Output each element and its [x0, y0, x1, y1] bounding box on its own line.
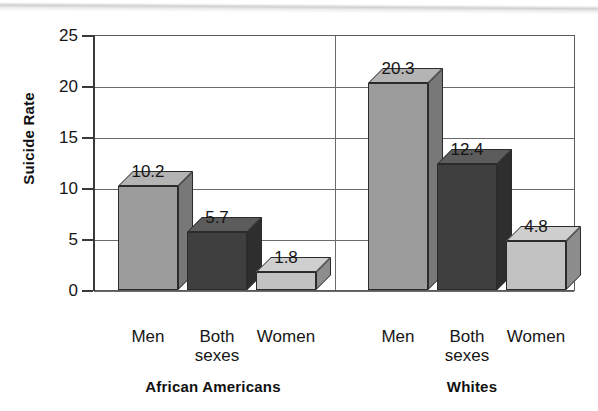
y-tick-mark-15 — [82, 137, 93, 139]
y-tick-label-5: 5 — [38, 231, 78, 248]
y-tick-label-20: 20 — [38, 78, 78, 95]
y-tick-label-25: 25 — [38, 27, 78, 44]
x-tick-label-african-americans-both-sexes: Both sexes — [177, 327, 257, 365]
gridline-0 — [94, 291, 574, 292]
y-tick-mark-5 — [82, 239, 93, 241]
bar-value-african-americans-men: 10.2 — [108, 163, 188, 180]
x-tick-label-african-americans-men: Men — [108, 327, 188, 346]
bar-front-face — [118, 186, 178, 290]
scan-artifact-streak — [0, 2, 598, 15]
group-label-whites: Whites — [382, 378, 562, 395]
x-tick-label-whites-men: Men — [358, 327, 438, 346]
bar-value-whites-men: 20.3 — [358, 60, 438, 77]
bar-front-face — [187, 232, 247, 290]
y-tick-mark-20 — [82, 86, 93, 88]
group-label-african-americans: African Americans — [123, 378, 303, 395]
bar-front-face — [437, 164, 497, 290]
bar-value-whites-women: 4.8 — [496, 218, 576, 235]
bar-value-whites-both-sexes: 12.4 — [427, 141, 507, 158]
bar-front-face — [506, 241, 566, 290]
bar-front-face — [368, 83, 428, 290]
y-axis-line — [93, 35, 95, 291]
bar-value-african-americans-women: 1.8 — [246, 249, 326, 266]
x-tick-label-whites-both-sexes: Both sexes — [427, 327, 507, 365]
x-tick-label-african-americans-women: Women — [246, 327, 326, 346]
gridline-15 — [94, 138, 574, 139]
group-divider-line — [335, 36, 336, 290]
bar-whites-both-sexes — [437, 164, 497, 290]
y-tick-mark-10 — [82, 188, 93, 190]
y-tick-label-10: 10 — [38, 180, 78, 197]
bar-african-americans-women — [256, 272, 316, 290]
y-tick-mark-0 — [82, 290, 93, 292]
bar-whites-men — [368, 83, 428, 290]
gridline-20 — [94, 87, 574, 88]
bar-front-face — [256, 272, 316, 290]
y-tick-label-0: 0 — [38, 282, 78, 299]
y-tick-mark-25 — [82, 35, 93, 37]
suicide-rate-bar-chart: 25 20 15 10 5 0 Suicide Rate 10.2 5.7 1.… — [0, 0, 598, 411]
x-tick-label-whites-women: Women — [496, 327, 576, 346]
bar-value-african-americans-both-sexes: 5.7 — [177, 209, 257, 226]
bar-whites-women — [506, 241, 566, 290]
y-axis-title: Suicide Rate — [20, 59, 37, 219]
bar-african-americans-both-sexes — [187, 232, 247, 290]
bar-african-americans-men — [118, 186, 178, 290]
y-tick-label-15: 15 — [38, 129, 78, 146]
